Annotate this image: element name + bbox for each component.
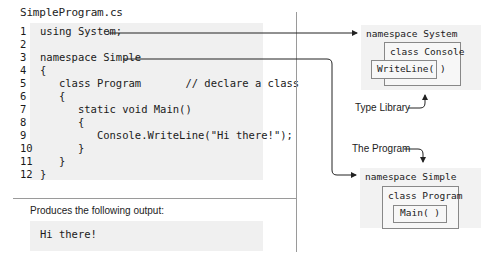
the-program-arrow xyxy=(404,149,423,162)
type-library-arrow xyxy=(408,95,425,108)
namespace-simple-connector xyxy=(123,59,356,175)
connector-overlay xyxy=(0,0,481,259)
